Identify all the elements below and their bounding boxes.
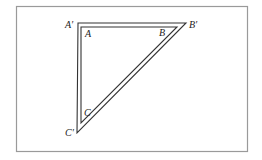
diagram-figure: A′ A B B′ C C′: [0, 0, 262, 160]
outer-triangle: [77, 23, 186, 133]
label-inner-b: B: [159, 27, 165, 38]
label-outer-a: A′: [64, 19, 74, 30]
label-outer-c: C′: [65, 127, 75, 138]
label-outer-b: B′: [189, 19, 198, 30]
label-inner-c: C: [84, 107, 91, 118]
label-inner-a: A: [84, 28, 92, 39]
diagram-frame: [17, 7, 248, 152]
inner-triangle: [81, 27, 177, 123]
